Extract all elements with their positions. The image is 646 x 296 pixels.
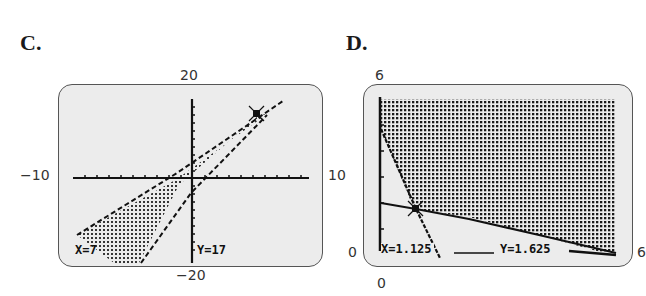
- panel-c-xmax-label: 10: [328, 168, 346, 182]
- panel-d-shaded-region: [381, 99, 616, 253]
- panel-c-ymax-label: 20: [180, 68, 198, 82]
- panel-c-y-readout: Y=17: [195, 244, 228, 256]
- panel-c-graph: [59, 85, 322, 266]
- panel-d-x-readout: X=1.125: [381, 243, 434, 255]
- panel-d-ymax-label: 6: [375, 68, 384, 82]
- panel-c-calculator-screen: X=7 Y=17: [58, 84, 323, 267]
- panel-d-xmax-label: 6: [637, 245, 646, 259]
- panel-d-ymin-label: 0: [348, 245, 357, 259]
- panel-c-shaded-region: [77, 114, 267, 263]
- panel-d-graph: [364, 85, 632, 266]
- panel-d-xmin-label: 0: [377, 276, 386, 290]
- panel-c-upper-line: [77, 101, 283, 235]
- panel-d-calculator-screen: X=1.125 Y=1.625: [363, 84, 633, 267]
- panel-d-y-readout: Y=1.625: [498, 243, 553, 255]
- panel-c-xmin-label: −10: [20, 168, 50, 182]
- panel-c-x-readout: X=7: [75, 244, 97, 256]
- panel-c-letter: C.: [20, 30, 41, 56]
- panel-c-ymin-label: −20: [176, 268, 206, 282]
- panel-d-letter: D.: [346, 30, 367, 56]
